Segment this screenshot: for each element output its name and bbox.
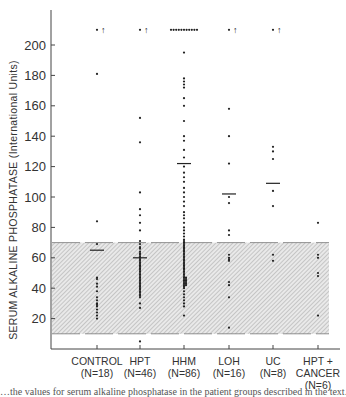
- category-label: HHM: [172, 355, 196, 367]
- category-n-label: (N=16): [213, 367, 245, 379]
- data-point: [139, 307, 141, 309]
- y-tick-label: 100: [24, 190, 46, 205]
- data-point: [175, 29, 177, 31]
- data-point: [228, 162, 230, 164]
- category-label: CONTROL: [71, 355, 122, 367]
- data-point: [183, 229, 185, 231]
- data-point: [317, 314, 319, 316]
- data-point: [183, 172, 185, 174]
- data-point: [139, 222, 141, 224]
- data-point: [139, 29, 141, 31]
- data-point: [228, 260, 230, 262]
- data-point: [183, 181, 185, 183]
- data-point: [183, 52, 185, 54]
- data-point: [196, 29, 198, 31]
- data-point: [272, 150, 274, 152]
- data-point: [139, 302, 141, 304]
- category-label: CANCER: [296, 367, 341, 379]
- data-point: [228, 234, 230, 236]
- data-point: [96, 314, 98, 316]
- data-point: [272, 190, 274, 192]
- data-point: [188, 29, 190, 31]
- data-point: [183, 80, 185, 82]
- data-point: [170, 29, 172, 31]
- data-point: [272, 254, 274, 256]
- data-point: [183, 211, 185, 213]
- data-point: [183, 200, 185, 202]
- data-point: [183, 305, 185, 307]
- data-point: [186, 29, 188, 31]
- data-point: [139, 117, 141, 119]
- figure-caption: …the values for serum alkaline phosphata…: [0, 386, 346, 397]
- data-point: [139, 240, 141, 242]
- y-tick-label: 60: [32, 250, 46, 265]
- category-label: HPT +: [303, 355, 333, 367]
- data-point: [183, 166, 185, 168]
- normal-range-band: [52, 243, 329, 334]
- data-point: [228, 281, 230, 283]
- data-point: [183, 29, 185, 31]
- data-point: [183, 314, 185, 316]
- data-point: [96, 311, 98, 313]
- y-tick-label: 140: [24, 129, 46, 144]
- data-point: [139, 248, 141, 250]
- data-point: [183, 140, 185, 142]
- data-point: [96, 305, 98, 307]
- offscale-arrow-icon: ↑: [233, 25, 238, 35]
- data-point: [96, 286, 98, 288]
- data-point: [183, 191, 185, 193]
- offscale-arrow-icon: ↑: [101, 25, 106, 35]
- data-point: [272, 146, 274, 148]
- data-point: [183, 222, 185, 224]
- category-label: LOH: [218, 355, 240, 367]
- data-point: [228, 296, 230, 298]
- data-point: [193, 29, 195, 31]
- data-point: [139, 229, 141, 231]
- offscale-arrow-icon: ↑: [144, 25, 149, 35]
- category-label: HPT: [130, 355, 152, 367]
- offscale-arrow-icon: ↑: [277, 25, 282, 35]
- data-point: [183, 290, 185, 292]
- data-point: [96, 290, 98, 292]
- data-point: [317, 257, 319, 259]
- data-point: [228, 327, 230, 329]
- data-point: [180, 29, 182, 31]
- data-point: [139, 141, 141, 143]
- data-point: [183, 287, 185, 289]
- data-point: [183, 214, 185, 216]
- data-point: [183, 302, 185, 304]
- data-point: [228, 196, 230, 198]
- data-point: [139, 340, 141, 342]
- data-point: [183, 217, 185, 219]
- data-point: [317, 222, 319, 224]
- data-point: [183, 135, 185, 137]
- category-label: UC: [265, 355, 281, 367]
- data-point: [183, 156, 185, 158]
- data-point: [183, 299, 185, 301]
- data-point: [228, 29, 230, 31]
- data-point: [96, 283, 98, 285]
- data-point: [183, 196, 185, 198]
- data-point: [183, 176, 185, 178]
- data-point: [139, 296, 141, 298]
- data-point: [96, 308, 98, 310]
- data-point: [96, 318, 98, 320]
- data-point: [183, 235, 185, 237]
- data-point: [317, 272, 319, 274]
- data-point: [183, 226, 185, 228]
- data-point: [96, 29, 98, 31]
- data-point: [183, 296, 185, 298]
- data-point: [96, 278, 98, 280]
- data-point: [183, 205, 185, 207]
- data-point: [228, 135, 230, 137]
- y-tick-label: 160: [24, 98, 46, 113]
- data-point: [96, 243, 98, 245]
- data-point: [183, 149, 185, 151]
- data-point: [317, 254, 319, 256]
- data-point: [183, 105, 185, 107]
- data-point: [139, 191, 141, 193]
- data-point: [228, 108, 230, 110]
- data-point: [183, 293, 185, 295]
- data-point: [139, 208, 141, 210]
